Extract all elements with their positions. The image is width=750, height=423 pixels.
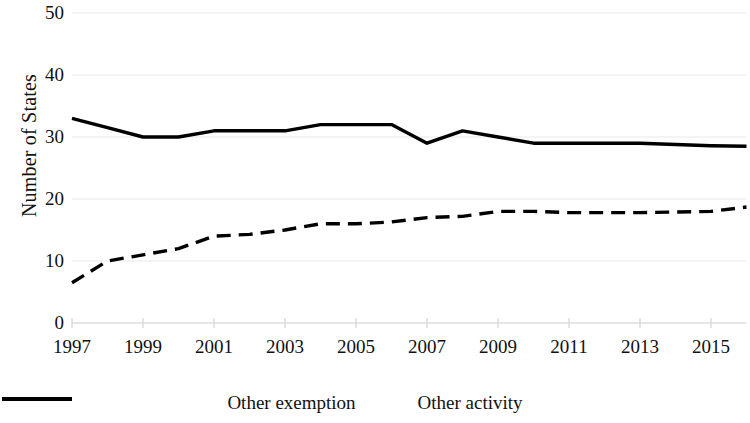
legend-item[interactable]: Other exemption (227, 392, 355, 414)
legend-swatch-dashed (0, 392, 74, 406)
series-line-other-exemption (72, 118, 747, 146)
chart-legend: Other exemptionOther activity (0, 392, 750, 414)
series-line-other-activity (72, 207, 747, 283)
line-chart: Number of States 01020304050 19971999200… (0, 0, 750, 423)
legend-label: Other activity (418, 392, 523, 414)
legend-item[interactable]: Other activity (418, 392, 523, 414)
chart-plot-area (0, 0, 750, 423)
data-series-layer (72, 118, 747, 282)
legend-label: Other exemption (227, 392, 355, 414)
gridlines (72, 13, 747, 323)
